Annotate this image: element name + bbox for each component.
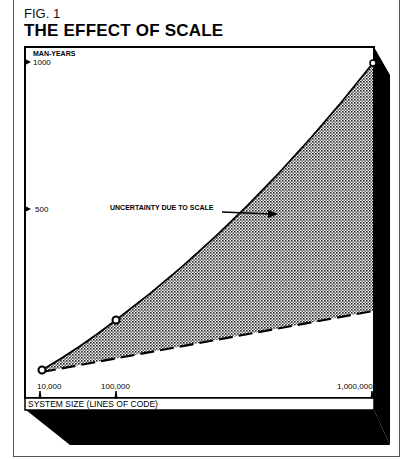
y-tick-label-1000: 1000	[33, 58, 51, 67]
x-tick-label-100000: 100,000	[101, 382, 130, 391]
x-axis-label: SYSTEM SIZE (LINES OF CODE)	[28, 399, 158, 409]
x-tick-label-10000: 10,000	[37, 382, 62, 391]
data-point-1000000	[370, 60, 376, 66]
data-point-10000	[39, 367, 46, 374]
chart-canvas: MAN-YEARS 1000 500 10,000 100,000 1,000,…	[0, 0, 414, 459]
data-point-100000	[113, 317, 120, 324]
shadow-bottom	[26, 410, 390, 445]
uncertainty-annotation: UNCERTAINTY DUE TO SCALE	[110, 204, 214, 211]
shadow-right	[374, 47, 390, 445]
y-axis-label: MAN-YEARS	[33, 50, 76, 57]
x-tick-label-1000000: 1,000,000	[337, 382, 373, 391]
y-tick-label-500: 500	[35, 205, 49, 214]
